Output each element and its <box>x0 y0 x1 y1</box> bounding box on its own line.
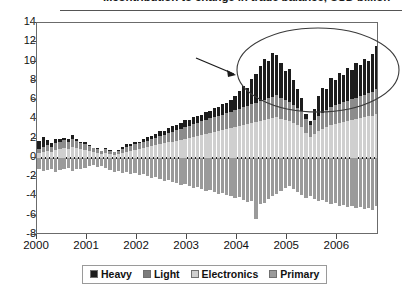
bar-column <box>92 23 95 233</box>
bar-segment-light <box>67 142 70 150</box>
bar-segment-electronics <box>321 129 324 158</box>
bar-column <box>363 23 366 233</box>
bar-segment-heavy <box>238 91 241 108</box>
bar-segment-heavy <box>167 128 170 133</box>
bar-segment-light <box>154 138 157 146</box>
bar-segment-light <box>259 101 262 121</box>
bar-segment-electronics <box>150 146 153 158</box>
bar-segment-heavy <box>104 148 107 149</box>
bar-segment-primary <box>117 158 120 171</box>
bar-segment-heavy <box>321 88 324 113</box>
bar-segment-heavy <box>284 71 287 100</box>
bar-column <box>146 23 149 233</box>
legend-item-primary[interactable]: Primary <box>269 268 319 280</box>
bar-segment-primary <box>313 158 316 199</box>
x-axis-tick-label: 2003 <box>173 239 199 251</box>
bar-segment-light <box>233 110 236 127</box>
bar-segment-light <box>83 144 86 150</box>
bar-segment-light <box>271 97 274 118</box>
bar-segment-electronics <box>217 131 220 158</box>
bar-segment-light <box>188 126 191 138</box>
bar-segment-electronics <box>296 125 299 158</box>
bar-column <box>354 23 357 233</box>
bar-segment-electronics <box>325 127 328 158</box>
bar-segment-primary <box>296 158 299 192</box>
bar-segment-primary <box>75 158 78 170</box>
bar-segment-heavy <box>138 142 141 144</box>
bar-segment-heavy <box>117 150 120 151</box>
bar-segment-light <box>354 98 357 119</box>
bar-segment-heavy <box>313 109 316 121</box>
legend-label: Electronics <box>202 268 259 280</box>
bar-column <box>267 23 270 233</box>
bar-segment-primary <box>125 158 128 172</box>
bar-segment-electronics <box>154 145 157 158</box>
bar-column <box>75 23 78 233</box>
bar-segment-electronics <box>79 149 82 158</box>
bar-segment-electronics <box>329 125 332 158</box>
bar-segment-heavy <box>275 55 278 95</box>
bar-segment-primary <box>133 158 136 173</box>
bar-segment-heavy <box>359 65 362 96</box>
bar-column <box>279 23 282 233</box>
bar-column <box>317 23 320 233</box>
bar-segment-light <box>125 147 128 152</box>
bar-segment-heavy <box>233 96 236 109</box>
x-axis-tick-label: 2004 <box>223 239 249 251</box>
bar-segment-primary <box>150 158 153 178</box>
bar-segment-light <box>171 132 174 142</box>
bar-segment-electronics <box>192 137 195 158</box>
bar-segment-light <box>167 133 170 143</box>
bar-segment-primary <box>113 158 116 172</box>
legend-item-heavy[interactable]: Heavy <box>90 268 132 280</box>
bar-column <box>350 23 353 233</box>
bar-segment-light <box>46 145 49 151</box>
bar-segment-primary <box>250 158 253 201</box>
bar-segment-light <box>204 120 207 133</box>
bar-column <box>71 23 74 233</box>
bar-segment-light <box>104 149 107 153</box>
bar-segment-primary <box>292 158 295 189</box>
bar-segment-heavy <box>325 89 328 110</box>
bar-segment-primary <box>304 158 307 198</box>
bar-segment-electronics <box>309 137 312 158</box>
bar-segment-primary <box>367 158 370 208</box>
bar-column <box>58 23 61 233</box>
bar-segment-heavy <box>58 139 61 142</box>
bar-column <box>263 23 266 233</box>
bar-segment-heavy <box>171 126 174 132</box>
bar-segment-light <box>75 141 78 149</box>
x-axis-tick-label: 2002 <box>123 239 149 251</box>
title-divider <box>60 10 402 11</box>
bar-column <box>150 23 153 233</box>
bar-segment-electronics <box>350 120 353 158</box>
bar-segment-light <box>221 115 224 130</box>
x-axis-tick-label: 2000 <box>23 239 49 251</box>
bar-segment-primary <box>254 158 257 219</box>
bar-segment-light <box>146 141 149 148</box>
bar-column <box>167 23 170 233</box>
bar-segment-light <box>367 93 370 116</box>
bar-column <box>217 23 220 233</box>
bar-column <box>213 23 216 233</box>
bar-segment-electronics <box>367 116 370 157</box>
bar-segment-primary <box>246 158 249 202</box>
bar-column <box>300 23 303 233</box>
bar-segment-primary <box>188 158 191 186</box>
bar-segment-heavy <box>350 70 353 99</box>
bar-segment-light <box>279 98 282 119</box>
bar-column <box>117 23 120 233</box>
bar-segment-light <box>92 148 95 152</box>
bar-segment-electronics <box>292 123 295 158</box>
legend-item-light[interactable]: Light <box>143 268 180 280</box>
bar-segment-light <box>71 139 74 148</box>
bar-segment-primary <box>142 158 145 174</box>
bar-segment-electronics <box>271 118 274 158</box>
bar-segment-light <box>158 136 161 145</box>
bar-column <box>192 23 195 233</box>
legend-item-electronics[interactable]: Electronics <box>191 268 259 280</box>
trade-balance-chart: ...contribution to change in trade balan… <box>0 0 402 287</box>
bar-column <box>200 23 203 233</box>
bar-segment-heavy <box>88 145 91 146</box>
bar-segment-light <box>37 149 40 153</box>
